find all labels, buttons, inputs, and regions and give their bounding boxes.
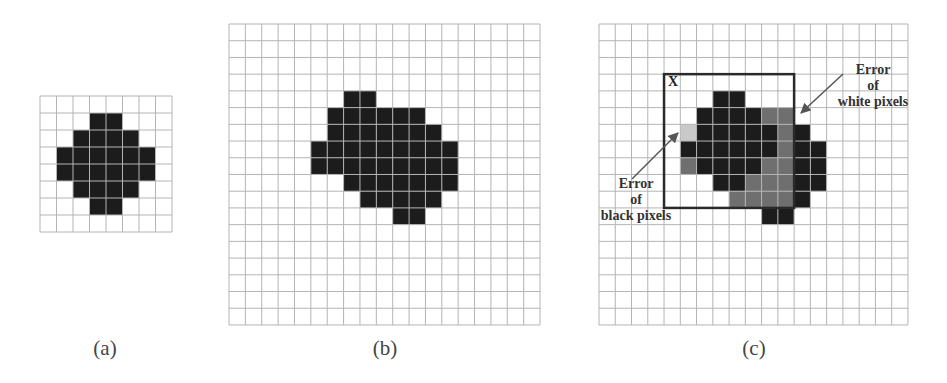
caption-b: (b): [345, 336, 425, 361]
black-pixel: [810, 141, 826, 158]
error-white-pixel: [745, 191, 761, 208]
black-pixel: [713, 141, 729, 158]
black-pixel: [745, 158, 761, 175]
black-pixel: [745, 141, 761, 158]
black-pixel: [713, 174, 729, 191]
black-error-line-2: of: [590, 192, 682, 208]
black-pixel: [729, 174, 745, 191]
error-white-pixel: [680, 158, 696, 175]
error-white-pixel: [778, 108, 794, 125]
black-pixel: [680, 141, 696, 158]
error-white-pixel: [778, 158, 794, 175]
black-pixel: [794, 174, 810, 191]
black-pixel: [794, 191, 810, 208]
black-pixel: [697, 158, 713, 175]
white-error-line-2: of: [823, 78, 923, 94]
error-black-pixel: [680, 124, 696, 141]
black-pixel: [762, 124, 778, 141]
black-error-label: Error of black pixels: [590, 176, 682, 224]
error-white-pixel: [745, 174, 761, 191]
black-pixel: [745, 108, 761, 125]
black-pixel: [713, 158, 729, 175]
error-white-pixel: [729, 191, 745, 208]
error-white-pixel: [778, 141, 794, 158]
caption-c: (c): [714, 336, 794, 361]
black-pixel: [810, 174, 826, 191]
black-pixel: [729, 91, 745, 108]
black-pixel: [810, 158, 826, 175]
black-pixel: [697, 124, 713, 141]
error-white-pixel: [778, 124, 794, 141]
black-error-line-1: Error: [590, 176, 682, 192]
black-pixel: [729, 141, 745, 158]
black-pixel: [762, 208, 778, 225]
black-pixel: [762, 141, 778, 158]
arrow-black-error-icon: [632, 133, 678, 179]
black-pixel: [794, 141, 810, 158]
box-x-label: X: [668, 74, 678, 90]
black-pixel: [729, 158, 745, 175]
black-pixel: [794, 124, 810, 141]
pixel-grid-c: [0, 0, 947, 383]
error-white-pixel: [778, 174, 794, 191]
white-error-line-3: white pixels: [823, 94, 923, 110]
black-pixel: [729, 124, 745, 141]
white-error-label: Error of white pixels: [823, 62, 923, 110]
black-pixel: [697, 141, 713, 158]
caption-a: (a): [65, 336, 145, 361]
black-pixel: [729, 108, 745, 125]
black-pixel: [713, 124, 729, 141]
black-pixel: [697, 108, 713, 125]
black-error-line-3: black pixels: [590, 208, 682, 224]
error-white-pixel: [762, 174, 778, 191]
error-white-pixel: [778, 191, 794, 208]
white-error-line-1: Error: [823, 62, 923, 78]
black-pixel: [745, 124, 761, 141]
black-pixel: [713, 108, 729, 125]
black-pixel: [713, 91, 729, 108]
black-pixel: [778, 208, 794, 225]
error-white-pixel: [762, 158, 778, 175]
error-white-pixel: [762, 191, 778, 208]
black-pixel: [794, 158, 810, 175]
error-white-pixel: [762, 108, 778, 125]
